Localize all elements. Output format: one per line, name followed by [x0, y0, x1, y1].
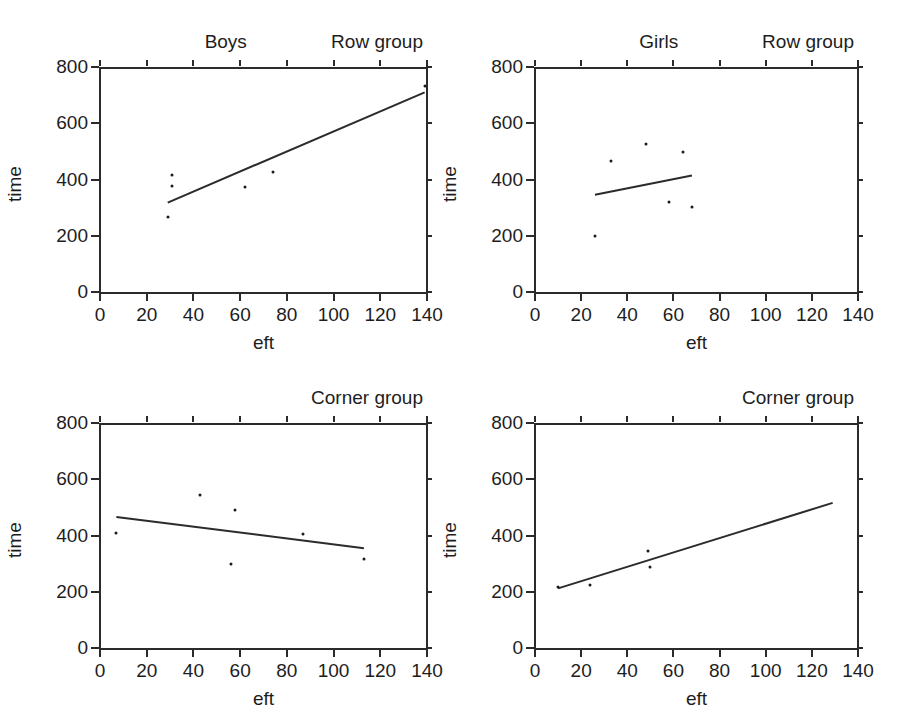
data-point-3-2: [647, 549, 650, 552]
data-point-3-1: [589, 584, 592, 587]
data-point-3-0: [557, 585, 560, 588]
chart-panel-3: Corner group0200400600800020406080100120…: [0, 0, 906, 712]
data-point-3-3: [649, 566, 652, 569]
regression-line-3: [0, 0, 906, 712]
figure-canvas: BoysRow group020040060080002040608010012…: [0, 0, 906, 712]
